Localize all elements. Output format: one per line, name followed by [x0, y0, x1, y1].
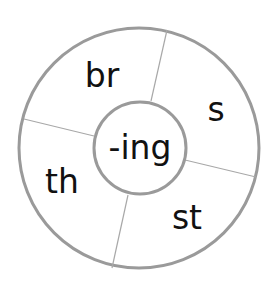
segment-label-bottom-right: st [172, 198, 202, 237]
segment-label-left: th [45, 162, 79, 201]
word-wheel: br s st th -ing [0, 0, 274, 287]
center-label: -ing [109, 128, 172, 167]
segment-label-top-left: br [85, 56, 120, 95]
segment-label-right: s [207, 90, 224, 129]
